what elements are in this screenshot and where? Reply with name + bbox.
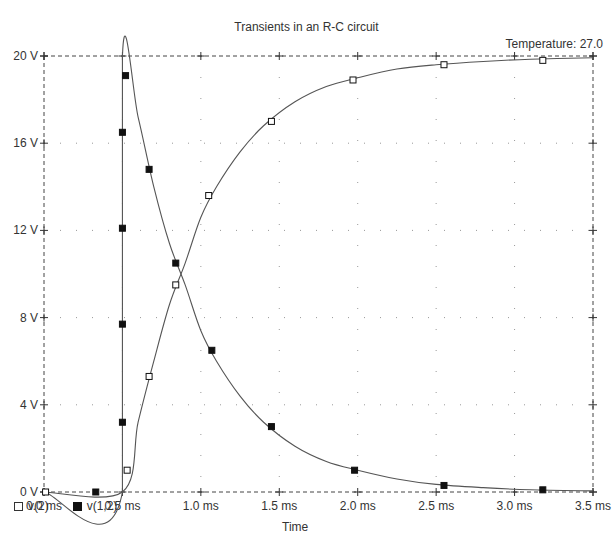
filled-square-marker (119, 321, 125, 327)
plot-area: 0.0 ms0.5 ms1.0 ms1.5 ms2.0 ms2.5 ms3.0 … (0, 0, 613, 547)
filled-square-marker (540, 487, 546, 493)
svg-text:2.5 ms: 2.5 ms (418, 499, 454, 513)
open-square-icon (14, 502, 23, 511)
open-square-marker (124, 467, 130, 473)
filled-square-marker (352, 467, 358, 473)
filled-square-marker (146, 166, 152, 172)
svg-text:16 V: 16 V (13, 136, 38, 150)
tick-labels: 0.0 ms0.5 ms1.0 ms1.5 ms2.0 ms2.5 ms3.0 … (13, 49, 611, 513)
filled-square-marker (441, 482, 447, 488)
legend-item-v12: v(1,2) (73, 499, 118, 513)
filled-square-icon (73, 502, 82, 511)
svg-text:8 V: 8 V (20, 311, 38, 325)
svg-text:2.0 ms: 2.0 ms (340, 499, 376, 513)
filled-square-marker (119, 419, 125, 425)
svg-text:1.5 ms: 1.5 ms (261, 499, 297, 513)
grid (44, 56, 593, 492)
open-square-marker (350, 77, 356, 83)
series-curves (44, 36, 593, 524)
filled-square-marker (119, 129, 125, 135)
svg-text:4 V: 4 V (20, 398, 38, 412)
svg-text:3.5 ms: 3.5 ms (575, 499, 611, 513)
filled-square-marker (93, 489, 99, 495)
legend-label: v(2) (28, 499, 49, 513)
legend-item-v2: v(2) (14, 499, 49, 513)
svg-text:3.0 ms: 3.0 ms (497, 499, 533, 513)
legend-label: v(1,2) (87, 499, 118, 513)
svg-text:0 V: 0 V (20, 485, 38, 499)
filled-square-marker (119, 225, 125, 231)
x-axis-label: Time (282, 520, 308, 534)
series-markers (43, 57, 546, 495)
open-square-marker (540, 57, 546, 63)
filled-square-marker (209, 347, 215, 353)
filled-square-marker (173, 260, 179, 266)
filled-square-marker (123, 73, 129, 79)
svg-text:12 V: 12 V (13, 223, 38, 237)
legend: v(2) v(1,2) (14, 499, 117, 513)
axes (40, 52, 597, 496)
svg-text:20 V: 20 V (13, 49, 38, 63)
open-square-marker (441, 62, 447, 68)
svg-text:1.0 ms: 1.0 ms (183, 499, 219, 513)
open-square-marker (173, 282, 179, 288)
open-square-marker (206, 193, 212, 199)
filled-square-marker (268, 424, 274, 430)
open-square-marker (43, 489, 49, 495)
open-square-marker (268, 118, 274, 124)
open-square-marker (146, 373, 152, 379)
